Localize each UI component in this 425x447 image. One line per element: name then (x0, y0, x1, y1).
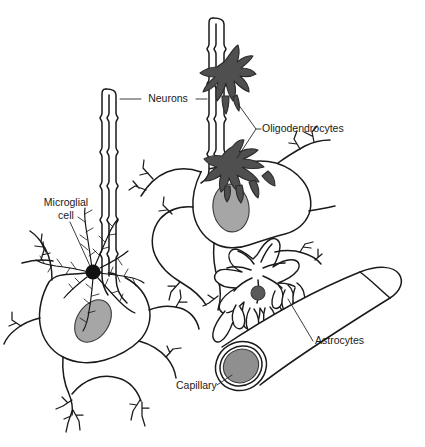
label-microglial-cell-line2: cell (58, 209, 74, 221)
label-astrocytes[interactable]: Astrocytes (315, 334, 364, 346)
dendrite-twig (140, 160, 153, 179)
dendrite-right-upper-left (141, 169, 201, 196)
dendrite-right-right (309, 206, 335, 211)
dendrite-twig (300, 242, 313, 252)
dendrite-twig (64, 411, 72, 432)
microglia-process (85, 208, 92, 268)
leader-microglial-cell (70, 222, 90, 266)
dendrite-left-bottom-arch (72, 376, 141, 401)
dendrite-twig (56, 397, 72, 409)
label-microglial-cell-line1: Microglial (44, 196, 88, 208)
dendrite-twig (129, 181, 146, 190)
oligodendrocyte-upper-process (222, 96, 229, 114)
astrocyte-upper-processes (275, 242, 322, 264)
astrocyte-nucleus (251, 286, 265, 300)
microglia-process (36, 260, 89, 272)
label-astrocytes-text: Astrocytes (315, 334, 364, 346)
dendrite-left-lower-right (139, 341, 176, 378)
label-capillary[interactable]: Capillary (176, 379, 218, 391)
label-microglial-cell[interactable]: Microglial cell (44, 196, 88, 221)
neuroglia-diagram: Neurons Oligodendrocytes Microglial cell… (0, 0, 425, 447)
dendrite-twig (73, 410, 83, 430)
label-neurons-text: Neurons (148, 92, 188, 104)
microglia-spine (40, 256, 76, 274)
dendrite-twig (166, 346, 181, 357)
label-oligodendrocytes-text: Oligodendrocytes (262, 122, 344, 134)
diagram-canvas: Neurons Oligodendrocytes Microglial cell… (0, 0, 425, 447)
dendrite-twig (159, 197, 172, 214)
dendrite-right-upper-right (278, 140, 330, 163)
label-neurons[interactable]: Neurons (148, 92, 188, 104)
microglia-soma (86, 265, 101, 280)
dendrite-twig (9, 312, 21, 326)
label-oligodendrocytes[interactable]: Oligodendrocytes (262, 122, 344, 134)
neuron-left (39, 272, 149, 363)
label-capillary-text: Capillary (176, 379, 218, 391)
dendrite-twig (176, 290, 187, 307)
dendrite-left-right (149, 306, 199, 329)
axon-left (100, 89, 127, 303)
oligodendrocyte-upper-process (233, 95, 239, 111)
dendrite-twig (130, 400, 140, 420)
dendrite-twig (315, 249, 322, 260)
dendrite-twig (203, 295, 218, 306)
astrocyte-stalk (213, 311, 233, 342)
dendrite-twig (168, 282, 180, 300)
dendrite-left-bottom-left (63, 357, 73, 415)
dendrite-left-left (4, 318, 40, 344)
dendrite-twig (142, 402, 149, 426)
